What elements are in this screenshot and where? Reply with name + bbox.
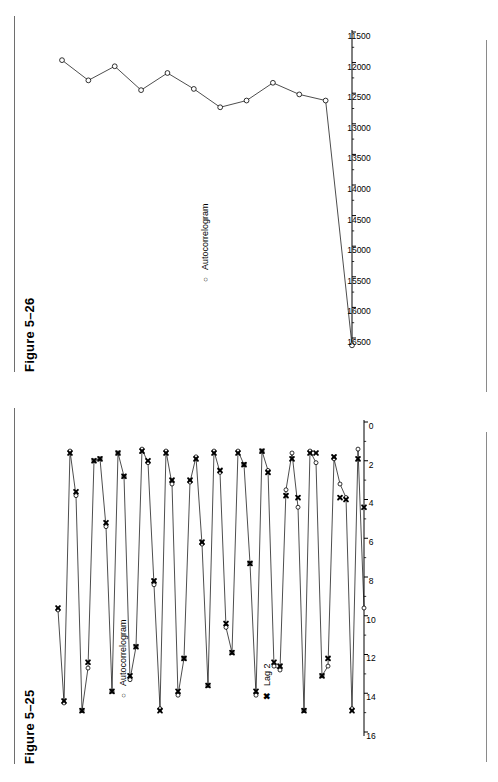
cross-marker-icon: ✖ <box>263 691 272 700</box>
figure-title: Figure 5–26 <box>22 298 37 372</box>
axis-tick-label: 14 <box>366 693 375 702</box>
axis-tick-label: 14000 <box>347 185 371 194</box>
legend-label: Lag 2 <box>262 663 272 686</box>
axis-tick-label: 10 <box>366 616 375 625</box>
figure-top-rule <box>14 408 15 764</box>
axis-tick-label: 8 <box>369 577 374 586</box>
figure-5-25: Figure 5–25 1614121086420 ○Autocorrelogr… <box>0 392 470 782</box>
legend-label: Autocorrelogram <box>118 619 128 686</box>
chart-plot-area: 1650016000155001500014500140001350013000… <box>52 20 412 350</box>
axis-tick-label: 13500 <box>347 154 371 163</box>
chart-plot-area: 1614121086420 <box>52 412 412 742</box>
axis-tick-label: 2 <box>369 461 374 470</box>
axis-tick-label: 16500 <box>347 338 371 347</box>
axis-tick-label: 16000 <box>347 307 371 316</box>
axis-tick-label: 12000 <box>347 63 371 72</box>
figure-5-26: Figure 5–26 1650016000155001500014500140… <box>0 0 470 390</box>
figure-title: Figure 5–25 <box>22 690 37 764</box>
axis-tick-label: 12500 <box>347 93 371 102</box>
axis-tick-label: 16 <box>366 732 375 741</box>
axis-tick-label: 12 <box>366 655 375 664</box>
page-right-rule-top <box>486 40 487 392</box>
axis-tick-label: 6 <box>369 538 374 547</box>
axis-tick-label: 13000 <box>347 124 371 133</box>
page-right-rule-bottom <box>486 432 487 762</box>
chart-legend: ○Autocorrelogram <box>200 203 210 284</box>
scanned-page: Figure 5–26 1650016000155001500014500140… <box>0 0 498 782</box>
chart-legend-lag2: ✖Lag 2 <box>262 663 272 700</box>
axis-tick-label: 4 <box>369 500 374 509</box>
axis-tick-label: 15000 <box>347 246 371 255</box>
figure-top-rule <box>14 16 15 372</box>
axis-tick-label: 0 <box>369 422 374 431</box>
circle-marker-icon: ○ <box>119 691 128 700</box>
axis-tick-label: 14500 <box>347 216 371 225</box>
chart-canvas <box>52 412 412 742</box>
circle-marker-icon: ○ <box>201 275 210 284</box>
chart-legend-autocorrelogram: ○Autocorrelogram <box>118 619 128 700</box>
axis-tick-label: 11500 <box>347 32 370 41</box>
legend-label: Autocorrelogram <box>200 203 210 270</box>
axis-tick-label: 15500 <box>347 277 371 286</box>
